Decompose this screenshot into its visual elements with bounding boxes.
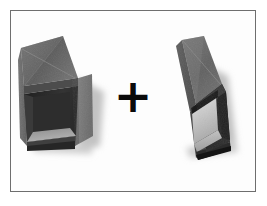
left-block [18, 36, 104, 154]
left-block-inner-back-wall [33, 92, 70, 132]
figure-root: + Two grey channel-shaped blocks combine… [0, 0, 267, 206]
plus-sign: + [112, 74, 154, 118]
right-block-texture [176, 36, 230, 152]
right-block [176, 36, 238, 160]
